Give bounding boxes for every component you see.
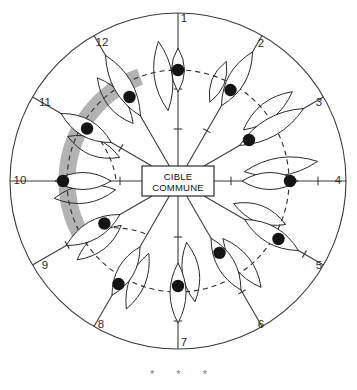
node-dot-10: [57, 175, 69, 187]
node-dot-2: [224, 84, 236, 96]
footer-asterisk-0: *: [150, 369, 154, 380]
node-dot-7: [172, 280, 184, 292]
spoke-number-10: 10: [14, 175, 27, 187]
spoke-number-4: 4: [335, 175, 341, 187]
center-box-layer: CIBLE COMMUNE: [142, 166, 214, 196]
radial-diagram-canvas: CIBLE COMMUNE: [0, 0, 357, 390]
radial-target-diagram: CIBLE COMMUNE 123456789101112 ***: [0, 0, 357, 390]
node-dot-1: [172, 64, 184, 76]
spoke-number-5: 5: [316, 260, 322, 272]
node-dot-6: [213, 247, 225, 259]
footer-asterisk-1: *: [176, 369, 180, 380]
node-dot-12: [123, 91, 135, 103]
spoke-number-7: 7: [181, 337, 187, 349]
spoke-number-12: 12: [96, 37, 109, 49]
spoke-number-1: 1: [181, 13, 187, 25]
node-dot-9: [98, 217, 110, 229]
node-dot-3: [243, 134, 255, 146]
center-box-line1: CIBLE: [164, 171, 192, 182]
node-dot-4: [284, 175, 296, 187]
spoke-number-2: 2: [258, 38, 264, 50]
spoke-tick-2-0: [203, 129, 210, 133]
spoke-number-6: 6: [258, 319, 264, 331]
spoke-number-9: 9: [42, 260, 48, 272]
spoke-tick-5-0: [302, 250, 306, 257]
node-dot-8: [112, 278, 124, 290]
spoke-number-8: 8: [98, 319, 104, 331]
spoke-number-3: 3: [316, 97, 322, 109]
lens-shape-secondary-12: [154, 41, 173, 110]
node-dot-11: [81, 122, 93, 134]
spoke-tick-11-0: [119, 144, 123, 151]
node-dot-5: [272, 233, 284, 245]
spoke-tick-6-0: [238, 290, 245, 294]
spoke-number-11: 11: [39, 97, 51, 109]
footer-asterisks: ***: [0, 364, 357, 382]
footer-asterisk-2: *: [203, 369, 207, 380]
center-box-line2: COMMUNE: [152, 182, 204, 193]
